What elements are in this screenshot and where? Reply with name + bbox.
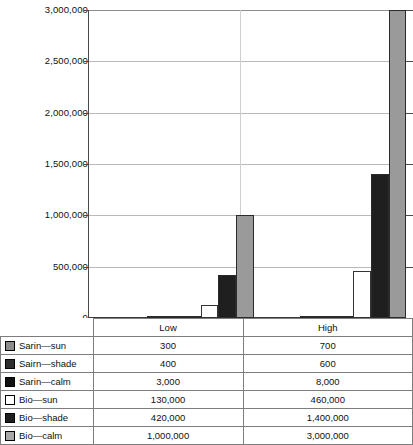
table-cell-low: 130,000 xyxy=(93,391,243,409)
plot-bars xyxy=(88,10,393,318)
table-row-label-cell: Sarin—sun xyxy=(1,337,94,355)
table-row: Bio—shade420,0001,400,000 xyxy=(1,409,413,427)
y-tick-label: 2,500,000 xyxy=(6,56,88,66)
bar xyxy=(389,10,407,318)
legend-swatch-icon xyxy=(5,377,15,387)
bar xyxy=(236,215,254,318)
table-header-low: Low xyxy=(93,319,243,337)
bar xyxy=(353,271,371,318)
bar xyxy=(218,275,236,318)
table-row-label-cell: Sairn—shade xyxy=(1,355,94,373)
legend-swatch-icon xyxy=(5,395,15,405)
legend-swatch-icon xyxy=(5,359,15,369)
y-tick-label: 500,000 xyxy=(6,262,88,272)
legend-label: Bio—shade xyxy=(19,412,68,423)
y-tick-label: 2,000,000 xyxy=(6,108,88,118)
table-cell-high: 600 xyxy=(243,355,412,373)
legend-label: Bio—sun xyxy=(19,394,58,405)
table-header-blank xyxy=(1,319,94,337)
bar-chart: 3,000,0002,500,0002,000,0001,500,0001,00… xyxy=(0,0,413,318)
table-row-label-cell: Bio—shade xyxy=(1,409,94,427)
table-row: Sairn—shade400600 xyxy=(1,355,413,373)
table-cell-low: 400 xyxy=(93,355,243,373)
table-row: Sarin—calm3,0008,000 xyxy=(1,373,413,391)
table-cell-low: 1,000,000 xyxy=(93,427,243,445)
legend-swatch-icon xyxy=(5,431,15,441)
table-row: Bio—sun130,000460,000 xyxy=(1,391,413,409)
table-cell-high: 3,000,000 xyxy=(243,427,412,445)
legend-label: Bio—calm xyxy=(19,430,62,441)
legend-swatch-icon xyxy=(5,341,15,351)
table-row: Bio—calm1,000,0003,000,000 xyxy=(1,427,413,445)
y-tick-label: 1,500,000 xyxy=(6,159,88,169)
legend-label: Sarin—sun xyxy=(19,340,66,351)
table-row: Sarin—sun300700 xyxy=(1,337,413,355)
data-table: Low High Sarin—sun300700Sairn—shade40060… xyxy=(0,318,413,445)
legend-swatch-icon xyxy=(5,413,15,423)
table-cell-high: 460,000 xyxy=(243,391,412,409)
table-header-row: Low High xyxy=(1,319,413,337)
y-tick-label: 3,000,000 xyxy=(6,5,88,15)
legend-label: Sarin—calm xyxy=(19,376,71,387)
table-body: Sarin—sun300700Sairn—shade400600Sarin—ca… xyxy=(1,337,413,445)
table-row-label-cell: Bio—calm xyxy=(1,427,94,445)
bar xyxy=(201,305,219,318)
table-row-label-cell: Bio—sun xyxy=(1,391,94,409)
table-cell-low: 3,000 xyxy=(93,373,243,391)
table-row-label-cell: Sarin—calm xyxy=(1,373,94,391)
table-header-high: High xyxy=(243,319,412,337)
table-cell-low: 300 xyxy=(93,337,243,355)
table-cell-high: 700 xyxy=(243,337,412,355)
legend-label: Sairn—shade xyxy=(19,358,77,369)
y-tick-label: 1,000,000 xyxy=(6,210,88,220)
table-cell-high: 1,400,000 xyxy=(243,409,412,427)
table-cell-low: 420,000 xyxy=(93,409,243,427)
table-cell-high: 8,000 xyxy=(243,373,412,391)
bar xyxy=(371,174,389,318)
